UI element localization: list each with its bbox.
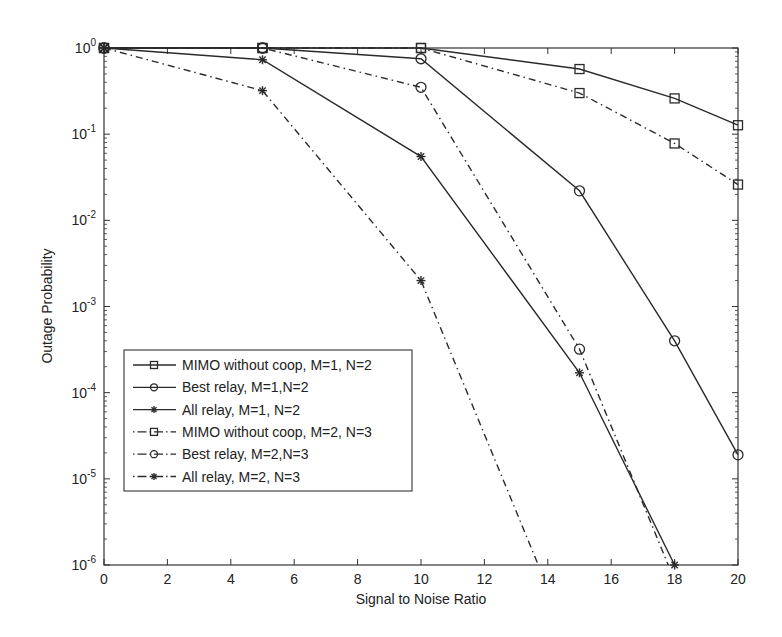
- x-tick-label: 14: [540, 571, 556, 587]
- star-marker: [100, 44, 109, 53]
- x-tick-label: 2: [164, 571, 172, 587]
- y-tick-label: 10-4: [72, 382, 97, 401]
- x-axis-label: Signal to Noise Ratio: [356, 591, 487, 607]
- y-tick-label: 10-6: [72, 554, 97, 573]
- series-1: [100, 44, 743, 130]
- x-tick-label: 10: [413, 571, 429, 587]
- star-marker: [575, 368, 584, 377]
- x-tick-label: 8: [354, 571, 362, 587]
- y-tick-label: 10-1: [72, 123, 97, 142]
- y-tick-label: 10-3: [72, 296, 97, 315]
- y-axis-label: Outage Probability: [39, 248, 55, 363]
- x-tick-label: 16: [603, 571, 619, 587]
- x-axis-ticks: 02468101214161820: [100, 48, 746, 587]
- x-tick-label: 12: [477, 571, 493, 587]
- x-tick-label: 4: [227, 571, 235, 587]
- y-tick-label: 100: [75, 37, 97, 56]
- x-tick-label: 18: [667, 571, 683, 587]
- star-marker: [258, 55, 267, 64]
- star-marker: [417, 152, 426, 161]
- star-marker: [258, 86, 267, 95]
- legend-label: Best relay, M=1,N=2: [182, 379, 309, 395]
- star-marker: [670, 561, 679, 570]
- y-tick-label: 10-5: [72, 468, 97, 487]
- legend-label: All relay, M=1, N=2: [182, 402, 300, 418]
- star-marker: [417, 276, 426, 285]
- y-tick-label: 10-2: [72, 209, 97, 228]
- series-4: [100, 44, 743, 190]
- star-marker: [151, 473, 158, 480]
- x-tick-label: 6: [290, 571, 298, 587]
- series-line: [104, 48, 738, 185]
- legend-label: Best relay, M=2,N=3: [182, 446, 309, 462]
- legend-label: All relay, M=2, N=3: [182, 469, 300, 485]
- legend-label: MIMO without coop, M=2, N=3: [182, 424, 372, 440]
- x-tick-label: 20: [730, 571, 746, 587]
- x-tick-label: 0: [100, 571, 108, 587]
- star-marker: [151, 406, 158, 413]
- legend: MIMO without coop, M=1, N=2Best relay, M…: [124, 350, 412, 491]
- legend-label: MIMO without coop, M=1, N=2: [182, 357, 372, 373]
- circle-marker: [416, 82, 426, 92]
- outage-probability-chart: 02468101214161820 10010-110-210-310-410-…: [0, 0, 782, 637]
